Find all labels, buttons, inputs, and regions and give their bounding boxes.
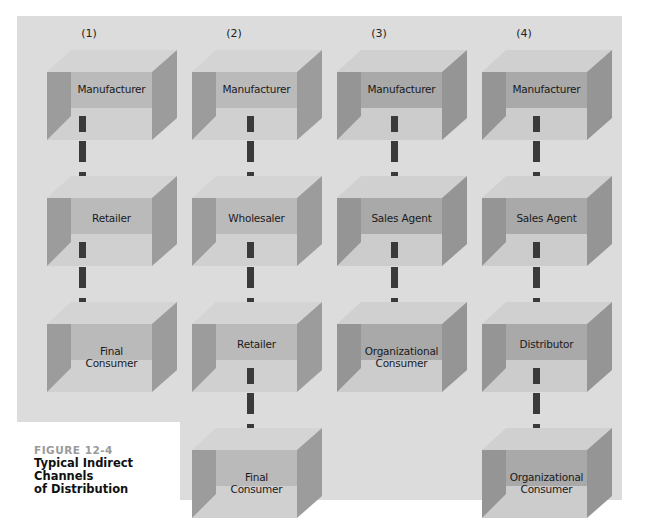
channel-4-node-manufacturer: Manufacturer [482, 50, 614, 142]
figure-number: FIGURE 12-4 [34, 444, 184, 456]
channel-3-node-manufacturer: Manufacturer [337, 50, 469, 142]
node-label: Retailer [71, 212, 152, 224]
arrow-connector-icon [390, 116, 400, 176]
arrow-connector-icon [532, 242, 542, 302]
box-3d-icon [482, 50, 614, 142]
channel-1-header: (1) [69, 27, 109, 40]
node-label: Final [71, 345, 152, 357]
box-3d-icon [47, 50, 179, 142]
node-label-line2: Consumer [506, 483, 587, 495]
arrow-connector-icon [246, 116, 256, 176]
arrow-connector-icon [246, 368, 256, 428]
node-label: Wholesaler [216, 212, 297, 224]
node-label: Final [216, 471, 297, 483]
node-label: Organizational [506, 471, 587, 483]
box-3d-icon [192, 50, 324, 142]
figure-caption: FIGURE 12-4 Typical Indirect Channels of… [34, 444, 184, 496]
figure-title-line2: of Distribution [34, 483, 184, 496]
channel-2-node-final-consumer: Final Consumer [192, 428, 324, 518]
channel-2-node-retailer: Retailer [192, 302, 324, 394]
node-label: Manufacturer [361, 83, 442, 95]
arrow-connector-icon [532, 368, 542, 428]
node-label: Organizational [361, 345, 442, 357]
box-3d-icon [337, 50, 469, 142]
arrow-connector-icon [78, 116, 88, 176]
arrow-connector-icon [390, 242, 400, 302]
node-label-line2: Consumer [216, 483, 297, 495]
channel-1-node-final-consumer: Final Consumer [47, 302, 179, 394]
channel-1-node-retailer: Retailer [47, 176, 179, 268]
channel-3-node-sales-agent: Sales Agent [337, 176, 469, 268]
channel-4-node-distributor: Distributor [482, 302, 614, 394]
arrow-connector-icon [532, 116, 542, 176]
node-label-line2: Consumer [71, 357, 152, 369]
channel-2-node-wholesaler: Wholesaler [192, 176, 324, 268]
channel-2-node-manufacturer: Manufacturer [192, 50, 324, 142]
node-label: Manufacturer [506, 83, 587, 95]
channel-4-node-organizational-consumer: Organizational Consumer [482, 428, 614, 518]
arrow-connector-icon [246, 242, 256, 302]
figure-title-line1: Typical Indirect Channels [34, 457, 184, 483]
figure-title: Typical Indirect Channels of Distributio… [34, 457, 184, 496]
channel-3-node-organizational-consumer: Organizational Consumer [337, 302, 469, 394]
node-label: Retailer [216, 338, 297, 350]
channel-3-header: (3) [359, 27, 399, 40]
node-label: Sales Agent [361, 212, 442, 224]
node-label: Manufacturer [71, 83, 152, 95]
node-label: Sales Agent [506, 212, 587, 224]
arrow-connector-icon [78, 242, 88, 302]
channel-1-node-manufacturer: Manufacturer [47, 50, 179, 142]
node-label: Distributor [506, 338, 587, 350]
channel-4-header: (4) [504, 27, 544, 40]
channel-4-node-sales-agent: Sales Agent [482, 176, 614, 268]
node-label-line2: Consumer [361, 357, 442, 369]
channel-2-header: (2) [214, 27, 254, 40]
node-label: Manufacturer [216, 83, 297, 95]
